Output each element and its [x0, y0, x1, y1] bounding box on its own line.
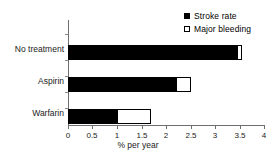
y-axis-tick: [65, 92, 68, 93]
x-axis-title: % per year: [0, 140, 276, 150]
x-axis-tick: [166, 125, 167, 129]
x-axis-tick-label: 2.5: [179, 131, 203, 140]
bar-segment-major-bleeding: [176, 77, 191, 92]
x-axis-tick-label: 1.5: [130, 131, 154, 140]
y-axis-tick: [65, 60, 68, 61]
x-axis-tick: [142, 125, 143, 129]
category-label-warfarin: Warfarin: [32, 108, 64, 118]
filled-square-icon: [184, 13, 190, 19]
plot-area: 0 0.5 1 1.5 2 2.5 3 3.5 4: [68, 20, 264, 125]
x-axis-tick-label: 3.5: [228, 131, 252, 140]
x-axis-tick-label: 3: [203, 131, 227, 140]
category-label-no-treatment: No treatment: [15, 44, 64, 54]
x-axis-tick-label: 0.5: [80, 131, 104, 140]
x-axis-tick: [92, 125, 93, 129]
bar-segment-major-bleeding: [237, 45, 242, 60]
x-axis-tick: [264, 125, 265, 129]
bar-segment-stroke-rate: [68, 45, 237, 60]
x-axis-tick-label: 1: [105, 131, 129, 140]
x-axis-tick: [215, 125, 216, 129]
bar-segment-stroke-rate: [68, 109, 117, 124]
x-axis-tick: [117, 125, 118, 129]
x-axis-tick: [240, 125, 241, 129]
x-axis-tick-label: 2: [154, 131, 178, 140]
category-label-aspirin: Aspirin: [38, 76, 64, 86]
stacked-bar-chart: Stroke rate Major bleeding No treatment …: [0, 0, 276, 158]
x-axis-tick-label: 0: [56, 131, 80, 140]
legend-label-stroke-rate: Stroke rate: [194, 11, 237, 21]
y-axis-tick: [65, 34, 68, 35]
x-axis-tick-label: 4: [252, 131, 276, 140]
bar-segment-stroke-rate: [68, 77, 176, 92]
x-axis-tick: [68, 125, 69, 129]
x-axis-tick: [191, 125, 192, 129]
bar-segment-major-bleeding: [117, 109, 151, 124]
